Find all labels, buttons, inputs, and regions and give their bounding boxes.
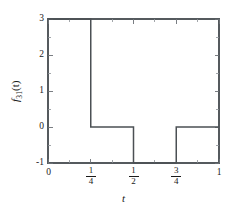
chart-figure: 3 2 1 0 -1 0 1 4 1 2 3 4 1 f31(t) t <box>0 0 247 211</box>
x-axis-title: t <box>0 192 247 204</box>
ytick-label-minus-1: -1 <box>23 158 44 168</box>
step-function-curve <box>48 19 219 163</box>
y-axis-title-subscript-main: 3 <box>15 95 24 99</box>
ytick-label-3: 3 <box>26 14 44 24</box>
xtick-label-half-denominator: 2 <box>128 177 140 186</box>
xtick-label-half: 1 2 <box>128 166 140 186</box>
y-axis-ticks-left <box>48 19 53 163</box>
y-axis-title-text: f31(t) <box>10 80 24 101</box>
xtick-label-quarter: 1 4 <box>85 166 97 186</box>
xtick-label-quarter-denominator: 4 <box>85 177 97 186</box>
y-axis-title-argument: (t) <box>10 80 22 90</box>
plot-canvas <box>0 0 247 211</box>
xtick-label-three-quarter-denominator: 4 <box>170 177 182 186</box>
xtick-label-three-quarter-numerator: 3 <box>170 166 182 175</box>
y-axis-ticks-right <box>215 19 220 163</box>
y-axis-title-subscript-second: 1 <box>15 91 24 95</box>
y-axis-title: f31(t) <box>2 58 32 124</box>
y-axis-title-base: f <box>10 99 22 102</box>
xtick-label-three-quarter: 3 4 <box>170 166 182 186</box>
xtick-label-quarter-numerator: 1 <box>85 166 97 175</box>
xtick-label-half-numerator: 1 <box>128 166 140 175</box>
xtick-label-1: 1 <box>215 168 224 178</box>
xtick-label-0: 0 <box>44 168 53 178</box>
